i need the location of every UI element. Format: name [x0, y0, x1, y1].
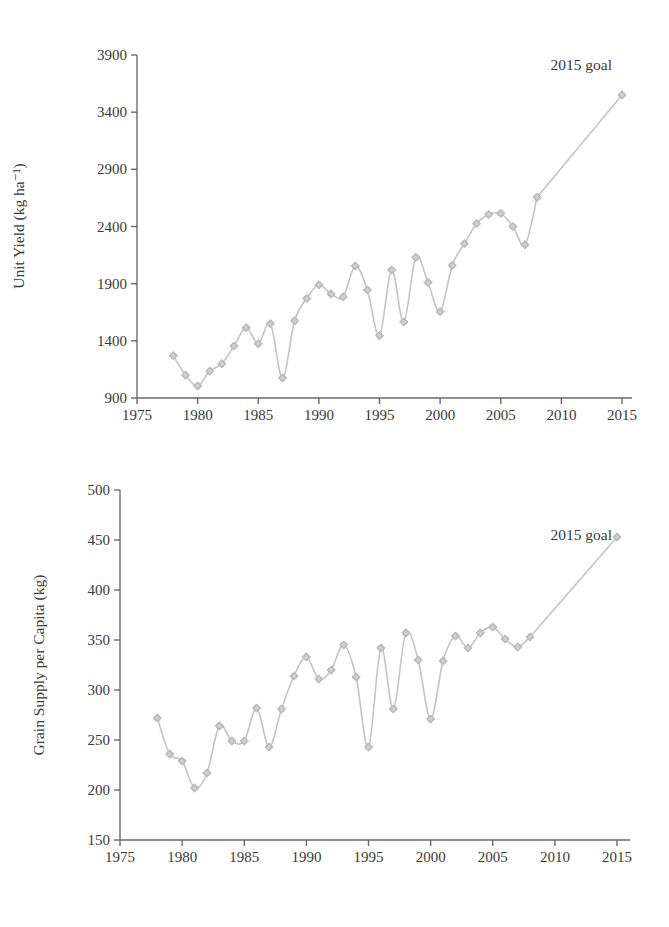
x-tick-label: 2000 [425, 407, 455, 423]
data-point-marker-core [353, 674, 358, 679]
data-point-marker-core [428, 716, 433, 721]
data-point-marker-core [403, 630, 408, 635]
x-tick-label: 2015 [602, 849, 632, 865]
data-point-marker-core [465, 645, 470, 650]
y-tick-label: 3400 [97, 104, 127, 120]
y-tick-label: 300 [88, 682, 111, 698]
data-point-marker-core [242, 738, 247, 743]
data-point-marker-core [229, 738, 234, 743]
data-point-marker-core [377, 333, 382, 338]
data-markers [169, 91, 626, 390]
series-line [173, 197, 537, 386]
data-point-marker-core [217, 723, 222, 728]
data-point-marker-core [486, 212, 491, 217]
goal-annotation: 2015 goal [550, 56, 612, 73]
y-tick-label: 200 [88, 782, 111, 798]
data-point-marker-core [167, 751, 172, 756]
data-point-marker-core [450, 263, 455, 268]
x-tick-label: 1980 [167, 849, 197, 865]
data-point-marker-core [254, 705, 259, 710]
data-point-marker-core [490, 624, 495, 629]
data-point-marker-core [219, 361, 224, 366]
data-point-marker-core [353, 263, 358, 268]
data-point-marker-core [304, 296, 309, 301]
data-point-marker-core [413, 255, 418, 260]
x-tick-label: 1995 [354, 849, 384, 865]
data-point-marker-core [207, 369, 212, 374]
chart-figure: 9001400190024002900340039001975198019851… [0, 0, 669, 927]
data-point-marker-core [279, 706, 284, 711]
data-point-marker-core [366, 744, 371, 749]
data-point-marker-core [453, 633, 458, 638]
data-point-marker-core [256, 341, 261, 346]
y-axis-title: Grain Supply per Capita (kg) [30, 575, 48, 756]
goal-projection-line [530, 537, 617, 637]
data-point-marker-core [389, 267, 394, 272]
data-point-marker-core [304, 654, 309, 659]
y-tick-label: 250 [88, 732, 111, 748]
data-point-marker-core [438, 309, 443, 314]
data-point-marker-core [183, 373, 188, 378]
data-point-marker-core [478, 630, 483, 635]
data-markers [153, 533, 621, 792]
data-point-marker-core [365, 287, 370, 292]
x-tick-label: 2005 [478, 849, 508, 865]
data-point-marker-core [192, 785, 197, 790]
x-tick-label: 1980 [183, 407, 213, 423]
grain-supply-chart: 1502002503003504004505001975198019851990… [30, 482, 632, 865]
data-point-marker-core [280, 375, 285, 380]
data-point-marker-core [498, 211, 503, 216]
x-tick-label: 1990 [291, 849, 321, 865]
y-tick-label: 350 [88, 632, 111, 648]
data-point-marker-core [267, 744, 272, 749]
data-point-marker-core [527, 634, 532, 639]
x-tick-label: 1985 [243, 407, 273, 423]
y-axis-title: Unit Yield (kg ha⁻¹) [10, 163, 28, 288]
x-tick-label: 1975 [122, 407, 152, 423]
y-tick-label: 150 [88, 832, 111, 848]
x-tick-label: 2000 [416, 849, 446, 865]
data-point-marker-core [155, 715, 160, 720]
x-tick-label: 1975 [105, 849, 135, 865]
x-tick-label: 2010 [540, 849, 570, 865]
data-point-marker-core [341, 294, 346, 299]
data-point-marker-core [180, 758, 185, 763]
y-tick-label: 450 [88, 532, 111, 548]
x-tick-label: 2010 [546, 407, 576, 423]
goal-annotation: 2015 goal [550, 526, 612, 543]
data-point-marker-core [328, 291, 333, 296]
data-point-marker-core [425, 280, 430, 285]
data-point-marker-core [401, 319, 406, 324]
y-tick-label: 2400 [97, 219, 127, 235]
data-point-marker-core [522, 242, 527, 247]
data-point-marker-core [244, 325, 249, 330]
y-tick-label: 1900 [97, 276, 127, 292]
data-point-marker-core [515, 644, 520, 649]
y-tick-label: 400 [88, 582, 111, 598]
x-tick-label: 1985 [229, 849, 259, 865]
x-tick-label: 1990 [304, 407, 334, 423]
data-point-marker-core [268, 321, 273, 326]
data-point-marker-core [416, 657, 421, 662]
data-point-marker-core [316, 676, 321, 681]
data-point-marker-core [329, 667, 334, 672]
data-point-marker-core [292, 318, 297, 323]
x-tick-label: 2015 [607, 407, 637, 423]
data-point-marker-core [474, 221, 479, 226]
data-point-marker-core [535, 195, 540, 200]
data-point-marker-core [171, 353, 176, 358]
goal-projection-line [537, 95, 622, 197]
data-point-marker-core [195, 383, 200, 388]
series-line [157, 627, 530, 789]
x-tick-label: 1995 [365, 407, 395, 423]
y-tick-label: 500 [88, 482, 111, 498]
data-point-marker-core [341, 642, 346, 647]
data-point-marker-core [614, 534, 619, 539]
data-point-marker-core [391, 706, 396, 711]
data-point-marker-core [378, 645, 383, 650]
unit-yield-chart: 9001400190024002900340039001975198019851… [10, 47, 637, 423]
data-point-marker-core [231, 343, 236, 348]
data-point-marker-core [440, 658, 445, 663]
axes: 9001400190024002900340039001975198019851… [97, 47, 637, 423]
data-point-marker-core [462, 241, 467, 246]
